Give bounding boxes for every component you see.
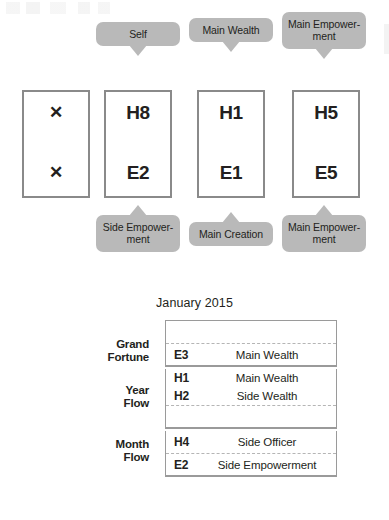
pillar-column-4: Main Empower- ment H5 E5 Main Empower- m… (278, 0, 370, 280)
table-row: H2 Side Wealth (166, 387, 336, 405)
pillar-box-4[interactable]: H5 E5 (292, 90, 360, 198)
callout-bottom-3[interactable]: Main Creation (189, 222, 273, 246)
row-desc: Side Empowerment (202, 459, 336, 471)
table-row: H4 Side Officer (166, 431, 336, 453)
pillar-earth-4: E5 (315, 163, 338, 183)
table-row: E2 Side Empowerment (166, 453, 336, 475)
pillar-column-1: ✕ ✕ (0, 0, 92, 280)
pillar-heaven-2: H8 (126, 103, 150, 123)
pillar-column-3: Main Wealth H1 E1 Main Creation (185, 0, 277, 280)
row-label-grand-fortune: GrandFortune (18, 338, 158, 363)
row-code: E2 (166, 458, 202, 472)
callout-tail-down-icon (129, 45, 147, 56)
row-code: H1 (166, 371, 202, 385)
row-label-month-flow: MonthFlow (18, 438, 158, 463)
row-code: E3 (166, 348, 202, 362)
pillar-box-3[interactable]: H1 E1 (197, 90, 265, 198)
callout-top-label-2: Self (129, 28, 147, 40)
pillar-column-2: Self H8 E2 Side Empower- ment (92, 0, 184, 280)
callout-top-label-3: Main Wealth (202, 24, 259, 36)
pillar-earth-1: ✕ (49, 163, 63, 183)
table-row (166, 405, 336, 427)
row-desc: Side Wealth (202, 390, 336, 402)
callout-bottom-label-2: Side Empower- ment (103, 221, 173, 245)
callout-top-2[interactable]: Self (96, 22, 180, 46)
pillar-box-1[interactable]: ✕ ✕ (22, 90, 90, 198)
callout-tail-up-icon (222, 212, 240, 223)
row-desc: Side Officer (202, 436, 336, 448)
callout-tail-up-icon (129, 205, 147, 216)
pillar-heaven-4: H5 (314, 103, 338, 123)
callout-tail-down-icon (222, 41, 240, 52)
row-code: H4 (166, 435, 202, 449)
callout-top-label-4: Main Empower- ment (288, 18, 360, 42)
table-section-year-flow: H1 Main Wealth H2 Side Wealth (165, 369, 337, 429)
flow-table-block: January 2015 GrandFortune YearFlow Month… (0, 280, 389, 520)
pillar-heaven-1: ✕ (49, 103, 63, 123)
pillar-box-2[interactable]: H8 E2 (104, 90, 172, 198)
flow-table: E3 Main Wealth H1 Main Wealth H2 Side We… (165, 320, 337, 477)
table-title: January 2015 (0, 296, 389, 310)
table-row: H1 Main Wealth (166, 369, 336, 387)
callout-bottom-label-4: Main Empower- ment (288, 221, 360, 245)
table-section-month-flow: H4 Side Officer E2 Side Empowerment (165, 431, 337, 477)
row-desc: Main Wealth (202, 349, 336, 361)
pillar-heaven-3: H1 (219, 103, 243, 123)
table-row: E3 Main Wealth (166, 343, 336, 365)
row-code: H2 (166, 389, 202, 403)
callout-bottom-label-3: Main Creation (199, 228, 263, 240)
pillar-earth-3: E1 (220, 163, 243, 183)
row-desc: Main Wealth (202, 372, 336, 384)
callout-bottom-2[interactable]: Side Empower- ment (96, 215, 180, 252)
callout-top-3[interactable]: Main Wealth (189, 18, 273, 42)
callout-tail-up-icon (315, 205, 333, 216)
pillar-diagram: ✕ ✕ Self H8 E2 Side Empower- ment Main W… (0, 0, 389, 280)
callout-bottom-4[interactable]: Main Empower- ment (282, 215, 366, 252)
row-label-year-flow: YearFlow (18, 384, 158, 409)
callout-top-4[interactable]: Main Empower- ment (282, 12, 366, 49)
pillar-earth-2: E2 (127, 163, 150, 183)
callout-tail-down-icon (315, 48, 333, 59)
table-row (166, 321, 336, 343)
table-section-grand-fortune: E3 Main Wealth (165, 320, 337, 367)
